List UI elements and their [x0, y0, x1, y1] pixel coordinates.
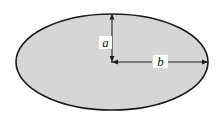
center-point [111, 61, 113, 63]
ellipse-diagram-canvas [0, 0, 218, 126]
semi-major-axis-label: b [153, 55, 168, 68]
semi-minor-axis-label: a [99, 36, 112, 49]
ellipse-figure: a b [0, 0, 218, 126]
